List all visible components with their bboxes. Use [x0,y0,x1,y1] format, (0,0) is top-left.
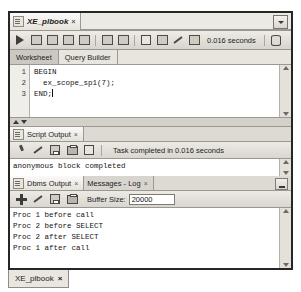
printer-icon [67,146,78,155]
sql-history-button[interactable] [116,33,130,47]
dbms-output-save-button[interactable] [48,192,62,206]
disk-icon [50,145,60,155]
scroll-up-arrow-icon[interactable] [283,160,289,164]
tab-script-output-close-icon[interactable]: × [74,131,78,138]
tab-dbms-output-close-icon[interactable]: × [74,180,78,187]
tab-dbms-output-label: Dbms Output [27,179,71,188]
rollback-button[interactable] [61,33,75,47]
toolbar-separator-1 [95,35,96,46]
history-icon [118,35,129,45]
unshared-worksheet-button[interactable] [77,33,91,47]
plus-icon [16,194,27,205]
script-run-icon [31,35,42,45]
bottom-tab-close-icon[interactable]: × [58,274,63,283]
editor-tabstrip: XE_plbook × [10,13,291,31]
disk-icon [50,194,60,204]
query-builder-button[interactable] [187,33,201,47]
run-statement-button[interactable] [13,33,27,47]
script-output-tabs-filler [84,127,291,141]
buffer-size-input[interactable]: 20000 [129,194,175,205]
worksheet-toolbar: 0.016 seconds [10,31,291,50]
code-line: BEGIN [34,67,279,78]
dbms-output-enable-button[interactable] [14,192,28,206]
scroll-up-arrow-icon[interactable] [283,209,289,213]
script-output-print-button[interactable] [65,143,79,157]
sql-editor[interactable]: 1 2 3 BEGIN ex_scope_sp1(7); END; [10,65,291,118]
eraser-icon [33,194,43,204]
code-text-area[interactable]: BEGIN ex_scope_sp1(7); END; [30,65,279,117]
run-script-button[interactable] [29,33,43,47]
dbms-output-text-area[interactable]: Proc 1 before call Proc 2 before SELECT … [10,208,291,268]
text-caret [52,89,53,97]
chevron-down-icon [278,21,284,24]
tab-script-output-label: Script Output [27,130,71,139]
output-line: Proc 1 after call [13,243,279,254]
eraser-icon [173,35,183,45]
commit-icon [47,35,58,45]
script-output-clear-button[interactable] [31,143,45,157]
grid-icon [141,35,151,45]
connection-selector[interactable] [269,33,283,47]
output-line: Proc 2 before SELECT [13,221,279,232]
bottom-tab-xe-plbook[interactable]: XE_plbook × [8,270,69,288]
worksheet-icon [13,16,24,27]
script-output-panel: Script Output × Task completed in 0.016 … [10,127,291,176]
tab-worksheet-label: Worksheet [16,53,52,62]
script-output-save-button[interactable] [48,143,62,157]
subtabs-filler [118,50,291,64]
scroll-up-arrow-icon[interactable] [283,66,289,70]
tab-messages-log-close-icon[interactable]: × [144,180,148,187]
minimize-icon [279,186,285,188]
dbms-output-toolbar: Buffer Size: 20000 [10,191,291,208]
tab-query-builder[interactable]: Query Builder [59,50,118,64]
scroll-down-arrow-icon[interactable] [283,263,289,267]
dbms-output-clear-button[interactable] [31,192,45,206]
dbms-output-scrollbar[interactable] [279,208,291,268]
tab-worksheet[interactable]: Worksheet [10,50,59,64]
script-output-text-area[interactable]: anonymous block completed [10,159,291,176]
code-line-with-caret: END; [34,89,279,100]
bottom-connection-tabstrip: XE_plbook × [8,270,293,288]
scroll-down-arrow-icon[interactable] [283,171,289,175]
autotrace-button[interactable] [155,33,169,47]
dbms-output-tabs-filler [154,176,291,190]
editor-tab-xe-plbook[interactable]: XE_plbook × [10,13,81,30]
splitter-collapse-down-icon[interactable] [21,120,27,124]
script-output-icon [13,129,24,140]
bottom-tab-label: XE_plbook [15,274,54,283]
dbms-output-minimize-button[interactable] [275,178,288,190]
commit-button[interactable] [45,33,59,47]
tabstrip-dropdown-button[interactable] [273,15,288,29]
clear-worksheet-button[interactable] [171,33,185,47]
output-line: Proc 2 after SELECT [13,232,279,243]
rollback-icon [63,35,74,45]
toolbar-separator-3 [264,35,265,46]
cancel-button[interactable] [100,33,114,47]
dbms-output-tabstrip: Dbms Output × Messages - Log × [10,176,291,191]
output-line: anonymous block completed [13,161,279,172]
explain-plan-button[interactable] [139,33,153,47]
pin-icon [17,145,26,155]
scroll-down-arrow-icon[interactable] [283,112,289,116]
tab-dbms-output[interactable]: Dbms Output × [10,176,84,190]
tab-script-output[interactable]: Script Output × [10,127,84,141]
editor-tab-close-icon[interactable]: × [71,18,75,25]
splitter-collapse-up-icon[interactable] [13,120,19,124]
tab-messages-log[interactable]: Messages - Log × [84,176,153,190]
code-line-text: END; [34,90,52,98]
line-number: 2 [10,78,29,89]
dbms-output-print-button[interactable] [65,192,79,206]
editor-scrollbar[interactable] [279,65,291,117]
toolbar-separator-2 [134,35,135,46]
dbms-output-lines: Proc 1 before call Proc 2 before SELECT … [10,208,279,268]
script-output-grid-button[interactable] [82,143,96,157]
script-output-pin-button[interactable] [14,143,28,157]
output-line: Proc 1 before call [13,210,279,221]
magnifier-icon [79,35,90,45]
query-builder-icon [189,35,200,45]
line-number: 3 [10,89,29,100]
script-output-scrollbar[interactable] [279,159,291,176]
script-output-lines: anonymous block completed [10,159,279,176]
code-line: ex_scope_sp1(7); [34,78,279,89]
editor-output-splitter[interactable] [10,118,291,127]
